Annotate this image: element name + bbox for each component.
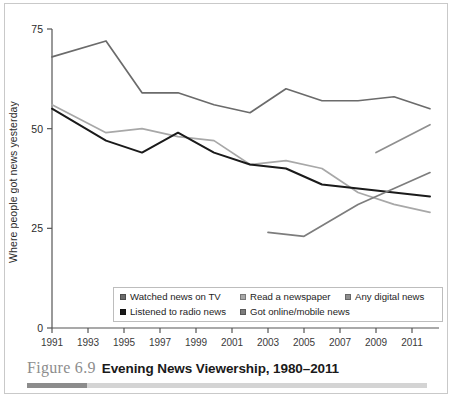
series-line-any-digital-news <box>376 125 430 153</box>
series-line-listened-to-radio-news <box>52 109 430 197</box>
legend-swatch-icon <box>120 294 126 300</box>
x-axis-tick-label: 1995 <box>113 337 136 348</box>
legend-label: Read a newspaper <box>250 291 331 303</box>
y-axis-tick-label: 25 <box>31 222 43 234</box>
y-axis-label: Where people got news yesterday <box>7 92 23 272</box>
legend-swatch-icon <box>240 309 246 315</box>
legend-swatch-icon <box>240 294 246 300</box>
x-axis-tick-label: 2011 <box>401 337 423 348</box>
x-axis-tick-label: 1997 <box>149 337 172 348</box>
legend-item-got-online-mobile-news[interactable]: Got online/mobile news <box>240 306 350 318</box>
x-axis-tick-label: 1993 <box>77 337 100 348</box>
figure-frame: Where people got news yesterday 02550751… <box>4 3 448 394</box>
figure-title: Evening News Viewership, 1980–2011 <box>102 361 339 376</box>
figure-number: Figure 6.9 <box>27 359 96 376</box>
y-axis-tick-label: 50 <box>31 123 43 135</box>
caption-text: Figure 6.9Evening News Viewership, 1980–… <box>27 359 339 377</box>
x-axis-tick-label: 2005 <box>293 337 316 348</box>
x-axis-tick-label: 2009 <box>365 337 388 348</box>
figure-page: Where people got news yesterday 02550751… <box>0 0 455 400</box>
caption-rule <box>27 383 427 388</box>
legend-item-watched-news-on-tv[interactable]: Watched news on TV <box>120 291 240 303</box>
legend-item-any-digital-news[interactable]: Any digital news <box>345 291 424 303</box>
chart-legend: Watched news on TV Read a newspaper Any … <box>113 287 443 322</box>
caption-rule-dark-segment <box>27 383 87 388</box>
figure-caption: Figure 6.9Evening News Viewership, 1980–… <box>5 355 449 395</box>
legend-swatch-icon <box>120 309 126 315</box>
series-line-watched-news-on-tv <box>52 41 430 113</box>
legend-label: Got online/mobile news <box>250 306 350 318</box>
y-axis-tick-label: 0 <box>37 322 43 334</box>
legend-label: Any digital news <box>355 291 424 303</box>
legend-label: Listened to radio news <box>130 306 226 318</box>
legend-label: Watched news on TV <box>130 291 221 303</box>
legend-swatch-icon <box>345 294 351 300</box>
y-axis-tick-label: 75 <box>31 23 43 35</box>
legend-item-read-a-newspaper[interactable]: Read a newspaper <box>240 291 345 303</box>
series-line-got-online-mobile-news <box>268 173 430 237</box>
x-axis-tick-label: 1999 <box>185 337 208 348</box>
x-axis-tick-label: 2001 <box>221 337 244 348</box>
legend-row-2: Listened to radio news Got online/mobile… <box>120 306 437 321</box>
x-axis-tick-label: 2003 <box>257 337 280 348</box>
legend-row-1: Watched news on TV Read a newspaper Any … <box>120 291 437 306</box>
legend-item-listened-to-radio-news[interactable]: Listened to radio news <box>120 306 240 318</box>
caption-rule-light-segment <box>87 383 427 388</box>
x-axis-tick-label: 1991 <box>41 337 64 348</box>
series-line-read-a-newspaper <box>52 105 430 213</box>
x-axis-tick-label: 2007 <box>329 337 352 348</box>
